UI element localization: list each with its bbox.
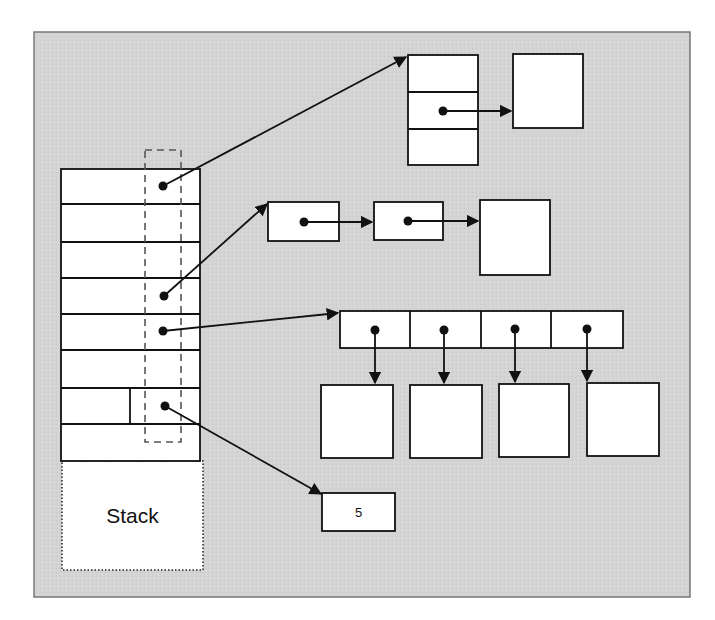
pointer-dot xyxy=(439,107,448,116)
pointer-dot xyxy=(404,217,413,226)
pointer-dot xyxy=(371,326,380,335)
array-element-object xyxy=(499,384,569,457)
list-terminal-object xyxy=(480,200,550,275)
pointer-dot xyxy=(440,326,449,335)
array-element-object xyxy=(321,385,393,458)
pointer-dot xyxy=(161,402,170,411)
pointer-dot xyxy=(583,325,592,334)
boxed-value-text: 5 xyxy=(322,493,395,531)
pointer-dot xyxy=(511,325,520,334)
pointer-dot xyxy=(159,327,168,336)
array-element-object xyxy=(587,383,659,456)
pointer-dot xyxy=(160,292,169,301)
stack-label: Stack xyxy=(62,461,203,570)
array-element-object xyxy=(410,385,482,458)
pointer-dot xyxy=(300,218,309,227)
pointer-dot xyxy=(159,182,168,191)
record-target-object xyxy=(513,54,583,128)
